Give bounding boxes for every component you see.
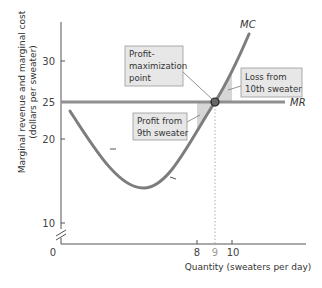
svg-text:Profit from: Profit from — [137, 116, 182, 126]
y-axis-title-line2: (dollars per sweater) — [28, 45, 38, 139]
y-tick-30: 30 — [42, 56, 55, 67]
svg-text:9th sweater: 9th sweater — [137, 128, 189, 138]
origin-label: 0 — [50, 247, 56, 258]
profit-max-annotation: Profit- maximization point — [125, 46, 187, 86]
mr-mc-chart: 30 25 20 10 0 8 9 10 Quantity (sweaters … — [0, 0, 322, 288]
svg-text:point: point — [129, 73, 152, 83]
y-ticks — [61, 61, 65, 223]
y-axis-title-line1: Marginal revenue and marginal cost — [17, 10, 27, 173]
y-tick-20: 20 — [42, 134, 55, 145]
x-tick-9: 9 — [212, 247, 218, 258]
y-tick-10: 10 — [42, 218, 55, 229]
x-axis-title: Quantity (sweaters per day) — [185, 262, 312, 272]
x-ticks — [197, 240, 232, 244]
svg-text:10th sweater: 10th sweater — [245, 84, 302, 94]
profit-max-leader — [183, 72, 213, 100]
svg-text:Loss from: Loss from — [245, 72, 287, 82]
svg-text:maximization: maximization — [129, 61, 187, 71]
y-tick-25: 25 — [42, 97, 55, 108]
loss-10th-annotation: Loss from 10th sweater — [241, 68, 302, 97]
arrow-mark-right — [170, 177, 176, 179]
mr-label: MR — [290, 97, 306, 108]
mc-label: MC — [240, 19, 256, 30]
svg-text:Profit-: Profit- — [129, 49, 155, 59]
x-tick-10: 10 — [227, 247, 240, 258]
x-tick-8: 8 — [194, 247, 200, 258]
profit-9th-annotation: Profit from 9th sweater — [133, 113, 189, 140]
